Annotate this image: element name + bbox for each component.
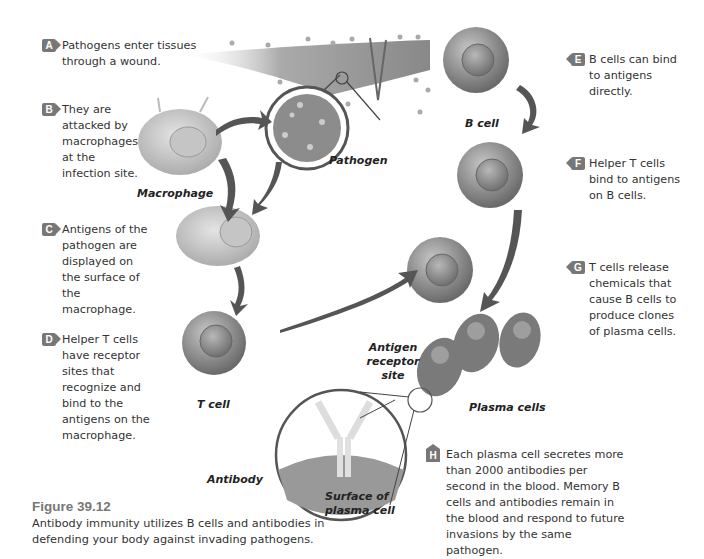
- figure-caption: Antibody immunity utilizes B cells and a…: [32, 516, 332, 548]
- step-g-text: T cells release chemicals that cause B c…: [589, 260, 679, 340]
- figure-number: Figure 39.12: [32, 499, 111, 514]
- label-t-cell: T cell: [197, 398, 230, 412]
- label-surface-of-plasma-cell: Surface of plasma cell: [325, 490, 403, 518]
- step-e-badge-icon: E: [571, 53, 585, 66]
- step-h: H Each plasma cell secretes more than 20…: [446, 447, 626, 559]
- step-h-badge-icon: H: [426, 449, 440, 462]
- step-d-badge-icon: D: [42, 333, 56, 346]
- label-antibody: Antibody: [207, 473, 263, 487]
- step-f-badge-icon: F: [571, 157, 585, 170]
- label-pathogen: Pathogen: [329, 154, 388, 168]
- step-e-text: B cells can bind to antigens directly.: [589, 52, 681, 100]
- step-b-badge-icon: B: [42, 103, 56, 116]
- label-macrophage: Macrophage: [137, 187, 213, 201]
- step-c-text: Antigens of the pathogen are displayed o…: [62, 222, 152, 318]
- step-a: A Pathogens enter tissues through a woun…: [62, 38, 242, 70]
- label-antigen-receptor-site: Antigen receptor site: [362, 341, 424, 383]
- b-cell-bound-illustration: [457, 142, 523, 208]
- macrophage-illustration: [138, 97, 222, 175]
- step-c-badge-icon: C: [42, 223, 56, 236]
- step-a-text: Pathogens enter tissues through a wound.: [62, 38, 242, 70]
- activated-b-cell-illustration: [407, 237, 473, 303]
- step-b: B They are attacked by macrophages at th…: [62, 102, 138, 182]
- step-c: C Antigens of the pathogen are displayed…: [62, 222, 152, 318]
- step-h-text: Each plasma cell secretes more than 2000…: [446, 447, 626, 559]
- label-plasma-cells: Plasma cells: [469, 401, 546, 415]
- step-f-text: Helper T cells bind to antigens on B cel…: [589, 156, 681, 204]
- step-e: E B cells can bind to antigens directly.: [589, 52, 681, 100]
- step-g-badge-icon: G: [571, 261, 585, 274]
- t-cell-illustration: [182, 311, 246, 375]
- b-cell-illustration: [443, 27, 509, 93]
- step-a-badge-icon: A: [42, 39, 56, 52]
- step-b-text: They are attacked by macrophages at the …: [62, 102, 138, 182]
- step-f: F Helper T cells bind to antigens on B c…: [589, 156, 681, 204]
- plasma-cells-illustration: [409, 307, 546, 402]
- label-b-cell: B cell: [465, 117, 499, 131]
- antigen-presenting-macrophage: [176, 206, 260, 266]
- step-d: D Helper T cells have receptor sites tha…: [62, 332, 154, 444]
- step-d-text: Helper T cells have receptor sites that …: [62, 332, 154, 444]
- step-g: G T cells release chemicals that cause B…: [589, 260, 679, 340]
